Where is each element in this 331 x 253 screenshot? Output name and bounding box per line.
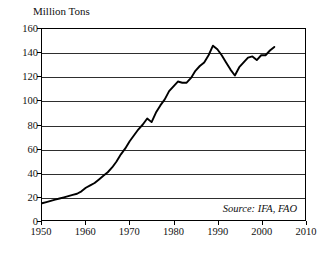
x-tick-mark-1950 bbox=[41, 221, 42, 225]
x-tick-label-1990: 1990 bbox=[207, 226, 228, 238]
y-tick-label-120: 120 bbox=[22, 71, 38, 82]
series-line-world-fertilizer-consumption bbox=[42, 46, 274, 204]
x-tick-label-2000: 2000 bbox=[251, 226, 272, 238]
y-tick-label-160: 160 bbox=[22, 23, 38, 34]
x-tick-label-1980: 1980 bbox=[163, 226, 184, 238]
y-tick-label-140: 140 bbox=[22, 47, 38, 58]
x-tick-label-1950: 1950 bbox=[31, 226, 52, 238]
x-tick-mark-1960 bbox=[85, 221, 86, 225]
y-axis-title: Million Tons bbox=[33, 5, 90, 18]
x-tick-mark-2010 bbox=[306, 221, 307, 225]
series-layer bbox=[42, 29, 305, 220]
x-tick-mark-1990 bbox=[218, 221, 219, 225]
x-tick-mark-1970 bbox=[129, 221, 130, 225]
source-annotation: Source: IFA, FAO bbox=[223, 203, 297, 214]
x-tick-mark-2000 bbox=[262, 221, 263, 225]
x-tick-label-1960: 1960 bbox=[75, 226, 96, 238]
x-tick-mark-1980 bbox=[174, 221, 175, 225]
y-tick-label-100: 100 bbox=[22, 95, 38, 106]
fertilizer-consumption-chart: Million Tons 020406080100120140160 Sourc… bbox=[0, 0, 331, 253]
x-tick-label-1970: 1970 bbox=[119, 226, 140, 238]
x-tick-label-2010: 2010 bbox=[296, 226, 317, 238]
plot-area: Source: IFA, FAO bbox=[41, 28, 306, 221]
